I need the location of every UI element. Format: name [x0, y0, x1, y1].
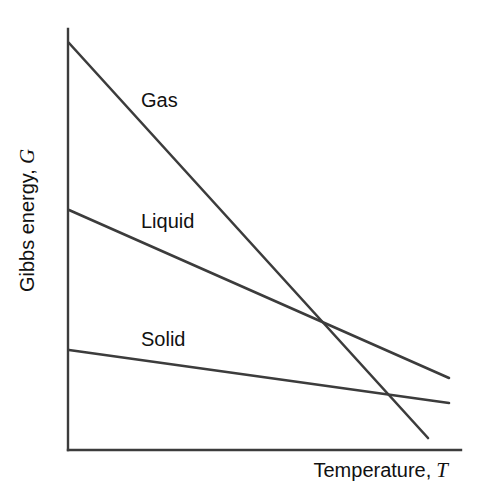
gas-curve-label: Gas: [141, 90, 178, 110]
y-axis-symbol: G: [16, 148, 40, 168]
solid-line: [69, 350, 449, 403]
liquid-curve-label: Liquid: [141, 211, 194, 231]
y-axis-label-text: Gibbs energy,: [17, 169, 39, 292]
gas-line: [69, 43, 428, 438]
x-axis-label: Temperature,T: [60, 460, 464, 481]
solid-curve-label: Solid: [141, 329, 185, 349]
plot-canvas: [0, 0, 479, 504]
gibbs-energy-temperature-figure: Gibbs energy,G Temperature,T Gas Liquid …: [0, 0, 479, 504]
x-axis-symbol: T: [431, 458, 448, 482]
x-axis-label-text: Temperature,: [313, 459, 431, 481]
y-axis-label: Gibbs energy,G: [0, 0, 56, 440]
liquid-line: [69, 210, 449, 378]
